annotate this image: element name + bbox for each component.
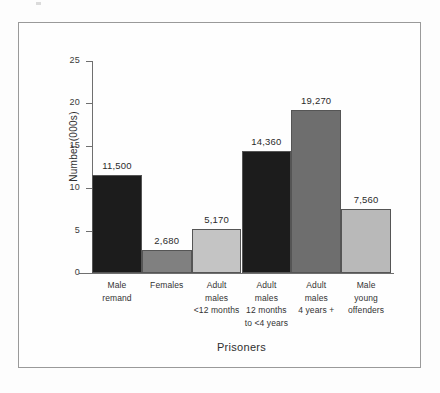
x-axis-category-label-line: remand xyxy=(86,292,148,305)
scan-artifact-speck xyxy=(36,2,41,5)
bar-value-label: 7,560 xyxy=(354,194,379,205)
x-axis-category-label-line: Male xyxy=(335,279,397,292)
bar: 2,680 xyxy=(142,250,192,273)
y-axis-tick: 0 xyxy=(86,273,92,274)
bar: 19,270 xyxy=(291,110,341,273)
x-axis-category-label-line: young xyxy=(335,292,397,305)
bar-value-label: 19,270 xyxy=(301,95,331,106)
bar-value-label: 5,170 xyxy=(204,214,229,225)
bar: 7,560 xyxy=(341,209,391,273)
x-axis-category-label: Maleyoungoffenders xyxy=(335,279,397,317)
bar: 14,360 xyxy=(242,151,292,273)
y-axis-tick-label: 25 xyxy=(70,55,86,65)
bar: 5,170 xyxy=(192,229,242,273)
bar-value-label: 14,360 xyxy=(251,136,281,147)
figure-frame: 0510152025 Number (000s) 11,5002,6805,17… xyxy=(18,22,421,368)
y-axis-tick-label: 5 xyxy=(75,225,86,235)
bar: 11,500 xyxy=(92,175,142,273)
y-axis-tick-label: 0 xyxy=(75,267,86,277)
x-axis-category-label-line: offenders xyxy=(335,304,397,317)
bar-value-label: 11,500 xyxy=(102,160,132,171)
scanned-page: 0510152025 Number (000s) 11,5002,6805,17… xyxy=(0,0,440,393)
bar-value-label: 2,680 xyxy=(154,235,179,246)
y-axis-title: Number (000s) xyxy=(68,87,79,207)
x-axis-title: Prisoners xyxy=(92,341,391,353)
plot-area: 11,5002,6805,17014,36019,2707,560 xyxy=(92,61,391,273)
x-axis-line xyxy=(79,273,394,274)
x-axis-category-label-line: to <4 years xyxy=(236,317,298,330)
y-axis-tick-mark xyxy=(86,273,92,274)
